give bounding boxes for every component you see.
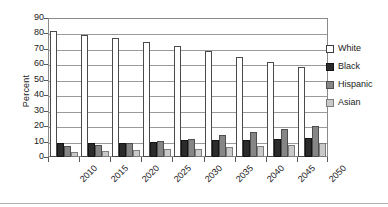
bar-black-2050 bbox=[305, 138, 312, 157]
bar-white-2025 bbox=[143, 42, 150, 157]
bar-hispanic-2030 bbox=[188, 139, 195, 157]
bar-asian-2035 bbox=[226, 147, 233, 157]
x-tick-mark bbox=[48, 157, 49, 162]
bar-group bbox=[110, 18, 141, 157]
bar-group bbox=[204, 18, 235, 157]
legend-swatch-icon bbox=[326, 81, 334, 89]
bar-hispanic-2045 bbox=[281, 129, 288, 157]
bar-asian-2020 bbox=[133, 150, 140, 157]
bar-group bbox=[235, 18, 266, 157]
bar-white-2035 bbox=[205, 51, 212, 157]
bar-black-2010 bbox=[57, 143, 64, 157]
bar-group bbox=[266, 18, 297, 157]
y-tick-label: 20 bbox=[18, 121, 44, 130]
y-tick-label: 30 bbox=[18, 106, 44, 115]
y-tick-label: 40 bbox=[18, 90, 44, 99]
bar-asian-2045 bbox=[288, 145, 295, 157]
legend-swatch-icon bbox=[326, 99, 334, 107]
bar-black-2015 bbox=[88, 143, 95, 157]
bar-chart: Percent 9080706050403020100 201020152020… bbox=[0, 0, 388, 207]
bottom-divider bbox=[0, 203, 388, 204]
x-tick-label: 2035 bbox=[234, 163, 255, 184]
x-tick-mark bbox=[327, 157, 328, 162]
y-tick-label: 90 bbox=[18, 13, 44, 22]
bar-group bbox=[48, 18, 79, 157]
bar-white-2010 bbox=[50, 31, 57, 157]
bar-group bbox=[297, 18, 328, 157]
legend-swatch-icon bbox=[326, 63, 334, 71]
x-tick-mark bbox=[266, 157, 267, 162]
bar-hispanic-2025 bbox=[157, 141, 164, 157]
x-tick-mark bbox=[204, 157, 205, 162]
y-tick-label: 0 bbox=[18, 152, 44, 161]
y-tick-label: 10 bbox=[18, 137, 44, 146]
x-tick-label: 2010 bbox=[78, 163, 99, 184]
bar-black-2045 bbox=[274, 139, 281, 157]
x-tick-mark bbox=[172, 157, 173, 162]
bar-hispanic-2010 bbox=[64, 146, 71, 157]
bar-white-2015 bbox=[81, 35, 88, 157]
bar-black-2025 bbox=[150, 142, 157, 157]
y-tick-label: 50 bbox=[18, 75, 44, 84]
bar-white-2050 bbox=[298, 67, 305, 157]
x-tick-mark bbox=[297, 157, 298, 162]
legend-label: White bbox=[338, 44, 361, 53]
bar-white-2040 bbox=[236, 57, 243, 157]
y-tick-label: 60 bbox=[18, 59, 44, 68]
bar-asian-2050 bbox=[319, 143, 326, 157]
legend-swatch-icon bbox=[326, 45, 334, 53]
y-tick-label: 70 bbox=[18, 44, 44, 53]
bar-groups bbox=[48, 18, 328, 157]
x-axis-labels: 201020152020202520302035204020452050 bbox=[48, 163, 328, 203]
legend: WhiteBlackHispanicAsian bbox=[326, 44, 388, 107]
legend-item-white[interactable]: White bbox=[326, 44, 388, 53]
x-tick-label: 2015 bbox=[109, 163, 130, 184]
bar-hispanic-2040 bbox=[250, 132, 257, 157]
legend-label: Asian bbox=[338, 98, 361, 107]
bar-group bbox=[141, 18, 172, 157]
bar-black-2020 bbox=[119, 143, 126, 157]
x-tick-label: 2050 bbox=[327, 163, 348, 184]
x-tick-label: 2020 bbox=[140, 163, 161, 184]
bar-white-2045 bbox=[267, 62, 274, 157]
legend-label: Black bbox=[338, 62, 360, 71]
bar-black-2035 bbox=[212, 140, 219, 157]
x-tick-mark bbox=[110, 157, 111, 162]
x-tick-label: 2045 bbox=[296, 163, 317, 184]
bar-hispanic-2050 bbox=[312, 126, 319, 157]
legend-item-asian[interactable]: Asian bbox=[326, 98, 388, 107]
bar-black-2030 bbox=[181, 140, 188, 157]
bar-asian-2030 bbox=[195, 149, 202, 157]
legend-item-black[interactable]: Black bbox=[326, 62, 388, 71]
bar-asian-2040 bbox=[257, 146, 264, 157]
bar-hispanic-2020 bbox=[126, 143, 133, 157]
x-tick-mark bbox=[235, 157, 236, 162]
x-tick-label: 2025 bbox=[171, 163, 192, 184]
bar-white-2020 bbox=[112, 38, 119, 157]
bar-hispanic-2035 bbox=[219, 135, 226, 157]
legend-item-hispanic[interactable]: Hispanic bbox=[326, 80, 388, 89]
x-tick-mark bbox=[141, 157, 142, 162]
bar-white-2030 bbox=[174, 46, 181, 157]
bar-group bbox=[79, 18, 110, 157]
bar-hispanic-2015 bbox=[95, 145, 102, 157]
bar-black-2040 bbox=[243, 140, 250, 157]
x-tick-label: 2040 bbox=[265, 163, 286, 184]
x-tick-label: 2030 bbox=[203, 163, 224, 184]
y-tick-label: 80 bbox=[18, 28, 44, 37]
bar-group bbox=[172, 18, 203, 157]
x-tick-mark bbox=[79, 157, 80, 162]
legend-label: Hispanic bbox=[338, 80, 373, 89]
bar-asian-2025 bbox=[164, 149, 171, 157]
x-axis-ticks bbox=[48, 157, 328, 162]
